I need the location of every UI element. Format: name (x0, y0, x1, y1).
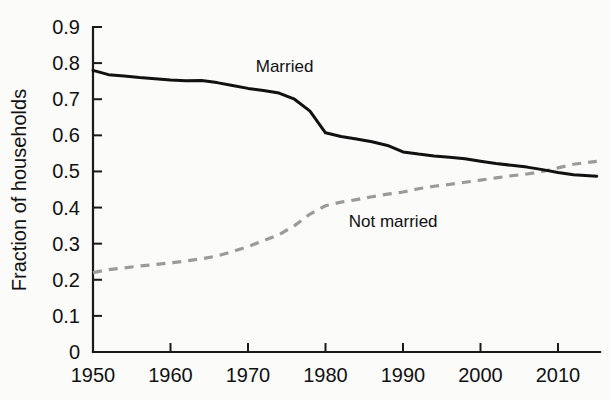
x-tick-label-1960: 1960 (148, 364, 193, 386)
x-tick-label-2010: 2010 (536, 364, 581, 386)
y-tick-label-0.5: 0.5 (52, 160, 80, 182)
chart-figure: 00.10.20.30.40.50.60.70.80.9 19501960197… (0, 0, 610, 400)
series-label-married: Married (256, 57, 314, 76)
y-tick-label-0: 0 (69, 341, 80, 363)
series-label-not-married: Not married (349, 212, 438, 231)
x-tick-label-1990: 1990 (381, 364, 426, 386)
x-tick-label-1970: 1970 (226, 364, 271, 386)
y-tick-label-0.9: 0.9 (52, 16, 80, 38)
y-tick-label-0.6: 0.6 (52, 124, 80, 146)
x-tick-label-2000: 2000 (458, 364, 503, 386)
y-tick-label-0.1: 0.1 (52, 305, 80, 327)
line-chart: 00.10.20.30.40.50.60.70.80.9 19501960197… (0, 0, 610, 400)
x-tick-label-1980: 1980 (303, 364, 348, 386)
y-tick-label-0.2: 0.2 (52, 269, 80, 291)
y-tick-label-0.7: 0.7 (52, 88, 80, 110)
y-axis-title: Fraction of households (8, 89, 30, 291)
x-tick-label-1950: 1950 (71, 364, 116, 386)
y-tick-label-0.8: 0.8 (52, 52, 80, 74)
y-tick-label-0.4: 0.4 (52, 197, 80, 219)
y-tick-label-0.3: 0.3 (52, 233, 80, 255)
